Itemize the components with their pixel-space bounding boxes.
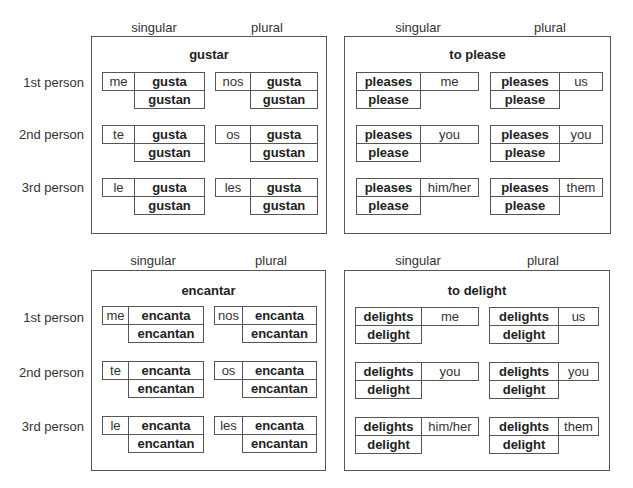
object-pronoun-cell: us	[558, 307, 599, 326]
pronoun-cell: le	[102, 416, 129, 435]
object-pronoun-cell: you	[559, 125, 603, 144]
verb-form-cell: please	[356, 143, 421, 162]
verb-form-cell: please	[356, 196, 421, 215]
object-pronoun-cell: him/her	[420, 178, 479, 197]
verb-form-cell: encanta	[128, 416, 204, 435]
panel-title: encantar	[92, 283, 325, 298]
column-header-plural: plural	[255, 253, 287, 268]
pronoun-cell: nos	[214, 306, 243, 325]
column-header-singular: singular	[395, 20, 441, 35]
verb-form-cell: delight	[489, 325, 559, 344]
column-header-plural: plural	[527, 253, 559, 268]
verb-form-cell: pleases	[490, 125, 560, 144]
column-header-plural: plural	[534, 20, 566, 35]
pronoun-cell: te	[102, 361, 129, 380]
verb-form-cell: delights	[489, 307, 559, 326]
verb-form-cell: pleases	[356, 125, 421, 144]
verb-form-cell: delights	[355, 417, 422, 436]
pronoun-cell: os	[215, 125, 251, 144]
verb-form-cell: please	[490, 143, 560, 162]
verb-form-cell: encanta	[128, 361, 204, 380]
column-header-singular: singular	[395, 253, 441, 268]
row-label-3rd-person: 3rd person	[0, 419, 84, 434]
verb-form-cell: gusta	[250, 125, 318, 144]
column-header-plural: plural	[251, 20, 283, 35]
verb-form-cell: gustan	[134, 143, 205, 162]
verb-form-cell: encantan	[128, 379, 204, 398]
pronoun-cell: me	[102, 72, 135, 91]
row-label-2nd-person: 2nd person	[0, 127, 84, 142]
verb-form-cell: pleases	[356, 72, 421, 91]
row-label-1st-person: 1st person	[0, 310, 84, 325]
verb-form-cell: delights	[355, 362, 422, 381]
pronoun-cell: les	[215, 178, 251, 197]
verb-form-cell: delight	[489, 435, 559, 454]
row-label-1st-person: 1st person	[0, 75, 84, 90]
verb-form-cell: gusta	[134, 125, 205, 144]
verb-form-cell: gustan	[250, 143, 318, 162]
verb-form-cell: encanta	[242, 416, 317, 435]
object-pronoun-cell: them	[558, 417, 599, 436]
verb-form-cell: delights	[489, 417, 559, 436]
verb-form-cell: gustan	[250, 196, 318, 215]
object-pronoun-cell: you	[558, 362, 599, 381]
verb-form-cell: delight	[355, 325, 422, 344]
object-pronoun-cell: you	[421, 362, 479, 381]
column-header-singular: singular	[130, 253, 176, 268]
verb-form-cell: gusta	[134, 178, 205, 197]
object-pronoun-cell: us	[559, 72, 603, 91]
verb-form-cell: encanta	[128, 306, 204, 325]
verb-form-cell: gusta	[250, 72, 318, 91]
verb-form-cell: gustan	[134, 196, 205, 215]
pronoun-cell: le	[102, 178, 135, 197]
verb-form-cell: delight	[355, 435, 422, 454]
verb-form-cell: delight	[355, 380, 422, 399]
pronoun-cell: nos	[215, 72, 251, 91]
verb-form-cell: gustan	[134, 90, 205, 109]
panel-title: to delight	[345, 283, 609, 298]
verb-form-cell: encantan	[128, 434, 204, 453]
verb-form-cell: encantan	[128, 324, 204, 343]
verb-form-cell: encantan	[242, 379, 317, 398]
pronoun-cell: os	[214, 361, 243, 380]
verb-form-cell: delight	[489, 380, 559, 399]
verb-form-cell: encantan	[242, 324, 317, 343]
pronoun-cell: me	[102, 306, 129, 325]
row-label-2nd-person: 2nd person	[0, 365, 84, 380]
verb-form-cell: pleases	[356, 178, 421, 197]
verb-form-cell: gusta	[134, 72, 205, 91]
panel-title: to please	[345, 47, 610, 62]
verb-form-cell: gustan	[250, 90, 318, 109]
verb-form-cell: encantan	[242, 434, 317, 453]
pronoun-cell: les	[214, 416, 243, 435]
object-pronoun-cell: him/her	[421, 417, 479, 436]
verb-form-cell: please	[490, 196, 560, 215]
column-header-singular: singular	[131, 20, 177, 35]
verb-form-cell: pleases	[490, 178, 560, 197]
verb-form-cell: please	[356, 90, 421, 109]
verb-form-cell: please	[490, 90, 560, 109]
verb-form-cell: delights	[489, 362, 559, 381]
object-pronoun-cell: them	[559, 178, 603, 197]
pronoun-cell: te	[102, 125, 135, 144]
verb-form-cell: encanta	[242, 306, 317, 325]
object-pronoun-cell: you	[420, 125, 479, 144]
row-label-3rd-person: 3rd person	[0, 180, 84, 195]
verb-form-cell: gusta	[250, 178, 318, 197]
object-pronoun-cell: me	[420, 72, 479, 91]
verb-form-cell: delights	[355, 307, 422, 326]
verb-form-cell: encanta	[242, 361, 317, 380]
object-pronoun-cell: me	[421, 307, 479, 326]
panel-title: gustar	[92, 47, 326, 62]
verb-form-cell: pleases	[490, 72, 560, 91]
